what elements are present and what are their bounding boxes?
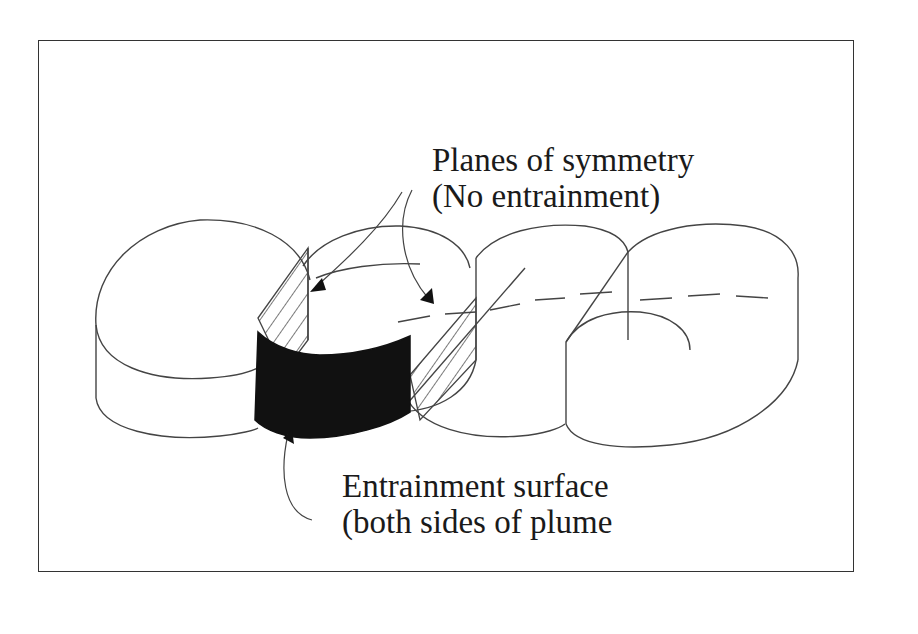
- leader-symmetry-right: [403, 190, 428, 298]
- plume-segment-4: [566, 224, 798, 447]
- entrainment-label-line1: Entrainment surface: [342, 468, 612, 504]
- symmetry-label-line2: (No entrainment): [432, 178, 694, 214]
- entrainment-label-line2: (both sides of plume: [342, 504, 612, 540]
- symmetry-label-line1: Planes of symmetry: [432, 142, 694, 178]
- symmetry-planes-label: Planes of symmetry (No entrainment): [432, 142, 694, 214]
- leader-entrainment: [284, 434, 312, 520]
- leader-symmetry-left: [318, 192, 402, 285]
- entrainment-surface-label: Entrainment surface (both sides of plume: [342, 468, 612, 540]
- entrainment-surface: [255, 332, 410, 438]
